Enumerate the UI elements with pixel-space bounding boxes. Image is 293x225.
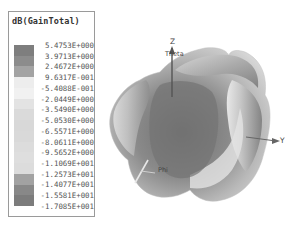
phi-label: Phi bbox=[158, 166, 168, 174]
colorbar-tick-label: -8.0611E+000 bbox=[41, 138, 94, 147]
3d-gain-surface bbox=[100, 0, 293, 225]
theta-label: Theta bbox=[165, 50, 184, 58]
colorbar-band bbox=[14, 185, 34, 196]
colorbar-band bbox=[14, 120, 34, 131]
colorbar-tick-label: 9.6317E-001 bbox=[45, 73, 94, 82]
colorbar-tick-label: 5.4753E+000 bbox=[45, 41, 94, 50]
colorbar-band bbox=[14, 142, 34, 153]
colorbar-tick-label: -2.0449E+000 bbox=[41, 95, 94, 104]
colorbar-tick-label: -1.2573E+001 bbox=[41, 170, 94, 179]
colorbar-band bbox=[14, 109, 34, 120]
colorbar-band bbox=[14, 131, 34, 142]
colorbar-tick-label: -6.5571E+000 bbox=[41, 127, 94, 136]
colorbar-legend: dB(GainTotal) 5.4753E+0003.9713E+0002.46… bbox=[8, 11, 95, 217]
colorbar-band bbox=[14, 195, 34, 206]
colorbar-tick-label: -1.7085E+001 bbox=[41, 202, 94, 211]
colorbar-tick-label: 3.9713E+000 bbox=[45, 52, 94, 61]
colorbar-band bbox=[14, 77, 34, 88]
colorbar-band bbox=[14, 163, 34, 174]
colorbar-tick-label: -9.5652E+000 bbox=[41, 148, 94, 157]
colorbar-band bbox=[14, 45, 34, 56]
colorbar-tick-label: -5.4088E-001 bbox=[41, 84, 94, 93]
colorbar-tick-label: -1.1069E+001 bbox=[41, 159, 94, 168]
z-axis-label: Z bbox=[170, 37, 175, 46]
colorbar-band bbox=[14, 174, 34, 185]
y-axis-label: Y bbox=[280, 136, 285, 145]
colorbar bbox=[14, 45, 34, 206]
colorbar-band bbox=[14, 88, 34, 99]
colorbar-tick-label: 2.4672E+000 bbox=[45, 62, 94, 71]
colorbar-tick-label: -5.0530E+000 bbox=[41, 116, 94, 125]
colorbar-tick-label: -1.5581E+001 bbox=[41, 191, 94, 200]
colorbar-labels: 5.4753E+0003.9713E+0002.4672E+0009.6317E… bbox=[33, 41, 95, 216]
colorbar-band bbox=[14, 66, 34, 77]
radiation-pattern-plot: Z Theta Y Phi bbox=[100, 0, 293, 225]
colorbar-band bbox=[14, 152, 34, 163]
legend-title: dB(GainTotal) bbox=[12, 16, 80, 26]
colorbar-band bbox=[14, 99, 34, 110]
colorbar-tick-label: -3.5490E+000 bbox=[41, 105, 94, 114]
colorbar-band bbox=[14, 56, 34, 67]
colorbar-tick-label: -1.4077E+001 bbox=[41, 180, 94, 189]
y-axis-arrow bbox=[272, 138, 280, 144]
